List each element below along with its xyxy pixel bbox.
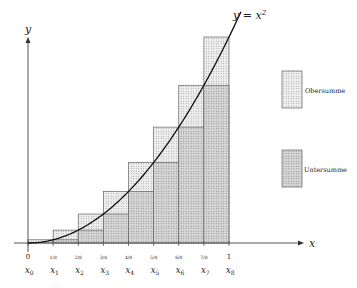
legend-swatch-obersumme	[282, 71, 302, 108]
x-axis-label: x	[309, 237, 316, 250]
x-tick-label: x7	[201, 265, 210, 276]
x-tick-value: 5/8	[150, 255, 157, 260]
x-tick-value: 0	[26, 253, 30, 261]
untersumme-bar	[78, 230, 103, 243]
riemann-sum-diagram: x y 0x01/8x12/8x23/8x34/8x45/8x56/8x67/8…	[0, 0, 357, 288]
y-axis-arrow-icon	[26, 37, 31, 43]
x-tick-value: 3/8	[100, 255, 107, 260]
untersumme-bar	[154, 163, 179, 243]
untersumme-bar	[179, 127, 204, 243]
legend: Obersumme Untersumme	[282, 71, 347, 187]
x-tick-value: 4/8	[125, 255, 132, 260]
x-tick-label: x1	[50, 265, 59, 276]
x-tick-label: x5	[151, 265, 160, 276]
x-tick-label: x3	[100, 265, 109, 276]
x-tick-label: x4	[126, 265, 135, 276]
legend-label-untersumme: Untersumme	[304, 166, 347, 174]
function-label: y = x2	[232, 9, 267, 22]
x-tick-value: 7/8	[200, 255, 207, 260]
untersumme-bar	[204, 85, 229, 243]
x-tick-value: 2/8	[75, 255, 82, 260]
untersumme-bar	[129, 192, 154, 244]
x-tick-value: 6/8	[175, 255, 182, 260]
x-tick-label: x6	[176, 265, 185, 276]
x-tick-value: 1	[227, 253, 231, 261]
x-tick-label: x2	[75, 265, 84, 276]
x-tick-label: x0	[25, 265, 34, 276]
x-tick-value: 1/8	[50, 255, 57, 260]
x-tick-label: x8	[226, 265, 235, 276]
legend-label-obersumme: Obersumme	[305, 87, 345, 95]
x-ticks: 0x01/8x12/8x23/8x34/8x45/8x56/8x67/8x71x…	[25, 241, 235, 276]
legend-swatch-untersumme	[282, 150, 302, 187]
x-axis-arrow-icon	[298, 241, 304, 246]
untersumme-bar	[103, 214, 128, 243]
y-axis-label: y	[24, 23, 32, 36]
